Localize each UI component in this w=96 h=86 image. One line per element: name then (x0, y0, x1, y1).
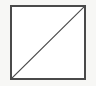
figure-canvas (0, 0, 96, 86)
square-with-diagonal-figure (0, 0, 96, 86)
